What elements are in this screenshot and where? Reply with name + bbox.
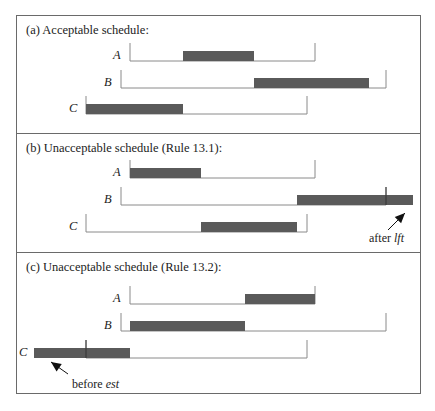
before-est-annotation: before est	[72, 377, 119, 392]
panel-a-row-b-activity-bar	[254, 78, 369, 88]
arrow-up-left-icon	[51, 362, 68, 374]
panel-c-row-c-activity-bar	[34, 348, 130, 358]
panel-c-row-a-activity-bar	[245, 294, 315, 304]
arrow-up-right-icon	[388, 213, 405, 230]
schedule-diagram	[0, 0, 435, 411]
panel-c-row-b-activity-bar	[130, 321, 245, 331]
panel-a-row-a-activity-bar	[183, 51, 254, 61]
panel-b-row-b-activity-bar	[297, 195, 413, 205]
panel-a-row-c-activity-bar	[86, 104, 183, 114]
panel-b-row-a-activity-bar	[130, 168, 201, 178]
panel-b-row-c-activity-bar	[201, 222, 297, 232]
after-lft-annotation: after lft	[369, 231, 404, 246]
